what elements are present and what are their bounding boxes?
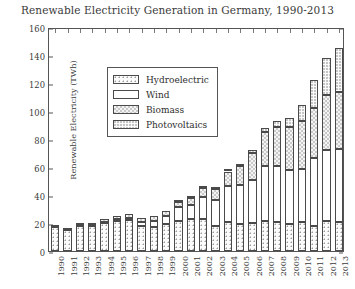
bar-segment-biomass-2001 (187, 198, 195, 205)
bar-segment-wind-2005 (236, 185, 244, 223)
bar-segment-biomass-2009 (285, 127, 293, 170)
bar-1999 (162, 29, 170, 251)
bar-segment-photovoltaics-2004 (224, 169, 232, 171)
bar-segment-hydroelectric-1995 (113, 221, 121, 251)
x-tick-label-1991: 1991 (70, 256, 79, 276)
bar-segment-wind-2002 (199, 197, 207, 219)
bar-2010 (298, 29, 306, 251)
bar-segment-photovoltaics-2011 (310, 80, 318, 107)
legend-label-photovoltaics: Photovoltaics (146, 120, 207, 130)
x-tick-label-2005: 2005 (242, 256, 251, 276)
y-tick-label: 120 (29, 80, 49, 90)
x-tick-label-2001: 2001 (193, 256, 202, 276)
bar-segment-hydroelectric-2003 (211, 226, 219, 251)
bar-segment-photovoltaics-2003 (211, 187, 219, 189)
bar-segment-biomass-2010 (298, 121, 306, 169)
x-tick-label-2003: 2003 (218, 256, 227, 276)
bar-segment-biomass-2005 (236, 166, 244, 186)
bar-segment-wind-1998 (150, 221, 158, 227)
x-tick-label-1999: 1999 (168, 256, 177, 276)
bar-segment-hydroelectric-2004 (224, 222, 232, 251)
bar-segment-photovoltaics-2001 (187, 196, 195, 198)
x-tick-label-2000: 2000 (181, 256, 190, 276)
bar-segment-biomass-2002 (199, 188, 207, 196)
bar-segment-wind-2013 (335, 149, 343, 221)
legend-item-biomass: Biomass (113, 102, 209, 117)
bar-2005 (236, 29, 244, 251)
bar-segment-photovoltaics-2008 (273, 121, 281, 127)
legend-label-hydroelectric: Hydroelectric (146, 75, 209, 85)
x-tick-label-1995: 1995 (119, 256, 128, 276)
bar-1992 (76, 29, 84, 251)
bar-segment-hydroelectric-1993 (88, 226, 96, 251)
bar-segment-wind-2000 (174, 207, 182, 220)
y-tick-label: 60 (34, 164, 49, 174)
x-tick-label-1990: 1990 (57, 256, 66, 276)
bar-segment-photovoltaics-2013 (335, 48, 343, 91)
legend-swatch-photovoltaics (113, 120, 139, 129)
bar-segment-biomass-1997 (137, 218, 145, 222)
bar-segment-wind-2010 (298, 169, 306, 222)
x-tick-label-2010: 2010 (304, 256, 313, 276)
y-tick-label: 140 (29, 52, 49, 62)
bar-2013 (335, 29, 343, 251)
legend-swatch-wind (113, 90, 139, 99)
legend-item-photovoltaics: Photovoltaics (113, 117, 209, 132)
x-tick-label-1997: 1997 (144, 256, 153, 276)
bar-segment-biomass-1991 (63, 228, 71, 230)
bar-segment-biomass-2013 (335, 92, 343, 150)
bar-segment-biomass-2006 (248, 153, 256, 180)
chart-container: Renewable Electricity Generation in Germ… (0, 0, 355, 289)
bar-segment-wind-1995 (113, 219, 121, 221)
bar-2003 (211, 29, 219, 251)
legend-swatch-biomass (113, 105, 139, 114)
bar-segment-hydroelectric-1996 (125, 220, 133, 251)
legend-label-wind: Wind (146, 90, 170, 100)
y-tick-label: 100 (29, 108, 49, 118)
bar-2002 (199, 29, 207, 251)
bar-segment-photovoltaics-2010 (298, 105, 306, 121)
bar-segment-wind-1999 (162, 216, 170, 224)
bar-1991 (63, 29, 71, 251)
bar-segment-photovoltaics-2007 (261, 128, 269, 132)
bar-2009 (285, 29, 293, 251)
bar-segment-hydroelectric-2000 (174, 221, 182, 251)
bar-segment-photovoltaics-2006 (248, 150, 256, 153)
bar-segment-biomass-1992 (76, 223, 84, 225)
bar-segment-wind-2012 (322, 150, 330, 221)
legend-item-wind: Wind (113, 87, 209, 102)
x-tick-label-2004: 2004 (230, 256, 239, 276)
bar-segment-hydroelectric-2008 (273, 222, 281, 251)
bar-segment-hydroelectric-1998 (150, 227, 158, 251)
bar-segment-hydroelectric-1999 (162, 224, 170, 251)
bar-segment-biomass-2000 (174, 202, 182, 208)
bar-segment-hydroelectric-1994 (100, 223, 108, 251)
bar-segment-biomass-2012 (322, 95, 330, 150)
bar-2006 (248, 29, 256, 251)
bar-segment-photovoltaics-2012 (322, 58, 330, 95)
legend-item-hydroelectric: Hydroelectric (113, 72, 209, 87)
y-tick-mark (49, 253, 53, 254)
x-tick-label-2013: 2013 (341, 256, 350, 276)
bar-1994 (100, 29, 108, 251)
bar-segment-hydroelectric-2012 (322, 221, 330, 251)
y-tick-label: 0 (40, 248, 49, 258)
chart-legend: Hydroelectric Wind Biomass Photovoltaics (107, 67, 218, 137)
bar-segment-biomass-1993 (88, 223, 96, 226)
bar-segment-hydroelectric-2009 (285, 224, 293, 251)
bar-2004 (224, 29, 232, 251)
bar-segment-biomass-2008 (273, 127, 281, 166)
y-tick-label: 40 (34, 192, 49, 202)
bar-segment-wind-1997 (137, 222, 145, 226)
bar-segment-hydroelectric-1997 (137, 226, 145, 251)
legend-swatch-hydroelectric (113, 75, 139, 84)
bar-segment-wind-2009 (285, 170, 293, 224)
bar-2000 (174, 29, 182, 251)
bar-segment-photovoltaics-2000 (174, 200, 182, 202)
bar-segment-photovoltaics-2009 (285, 118, 293, 127)
x-tick-label-2011: 2011 (316, 256, 325, 276)
bar-1998 (150, 29, 158, 251)
x-tick-label-2009: 2009 (292, 256, 301, 276)
bar-segment-wind-2008 (273, 166, 281, 223)
bar-2008 (273, 29, 281, 251)
